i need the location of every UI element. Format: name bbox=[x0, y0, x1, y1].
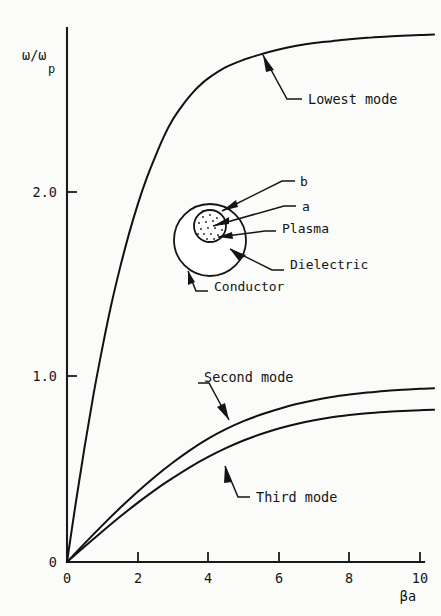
lowest-mode-label: Lowest mode bbox=[308, 91, 397, 107]
inset-label-dielectric: Dielectric bbox=[290, 257, 368, 272]
inset-leader-dielectric: Dielectric bbox=[230, 249, 368, 272]
inset-label-conductor: Conductor bbox=[214, 279, 285, 294]
x-tick-label-10: 10 bbox=[412, 570, 428, 586]
figure-container: 2.0 1.0 0 0 2 4 6 8 10 ω/ω p βa Lowest m… bbox=[0, 0, 441, 616]
y-tick-label-2: 2.0 bbox=[33, 184, 57, 200]
y-ticks-group bbox=[67, 192, 77, 376]
curve-lowest-mode bbox=[67, 35, 434, 563]
third-mode-label: Third mode bbox=[256, 489, 337, 505]
y-tick-label-1: 1.0 bbox=[33, 368, 57, 384]
x-axis-title: βa bbox=[400, 588, 416, 604]
inset-label-b: b bbox=[300, 174, 308, 189]
annotation-lowest-mode: Lowest mode bbox=[263, 55, 397, 107]
inset-label-plasma: Plasma bbox=[282, 221, 329, 236]
x-tick-label-0: 0 bbox=[63, 570, 71, 586]
second-mode-label: Second mode bbox=[204, 369, 293, 385]
inset-label-a: a bbox=[302, 199, 310, 214]
lowest-mode-arrowhead bbox=[263, 55, 274, 72]
third-mode-arrowhead bbox=[224, 466, 232, 483]
y-tick-label-0: 0 bbox=[49, 554, 57, 570]
y-axis-title-subscript: p bbox=[48, 62, 55, 76]
x-tick-label-2: 2 bbox=[134, 570, 142, 586]
axes-group bbox=[67, 28, 424, 562]
dispersion-plot: 2.0 1.0 0 0 2 4 6 8 10 ω/ω p βa Lowest m… bbox=[0, 0, 441, 616]
x-ticks-group bbox=[67, 552, 420, 562]
annotation-third-mode: Third mode bbox=[224, 466, 337, 505]
lowest-mode-leader-line bbox=[263, 55, 302, 99]
x-tick-label-4: 4 bbox=[204, 570, 212, 586]
x-tick-label-8: 8 bbox=[345, 570, 353, 586]
curve-third-mode bbox=[67, 410, 434, 562]
y-axis-title: ω/ω bbox=[22, 47, 46, 63]
annotation-second-mode: Second mode bbox=[198, 369, 293, 420]
second-mode-arrowhead bbox=[217, 403, 229, 420]
curves-group bbox=[67, 35, 434, 563]
inset-waveguide-diagram: b a Plasma Dielectric bbox=[174, 174, 368, 294]
curve-second-mode bbox=[67, 388, 434, 562]
x-tick-label-6: 6 bbox=[275, 570, 283, 586]
